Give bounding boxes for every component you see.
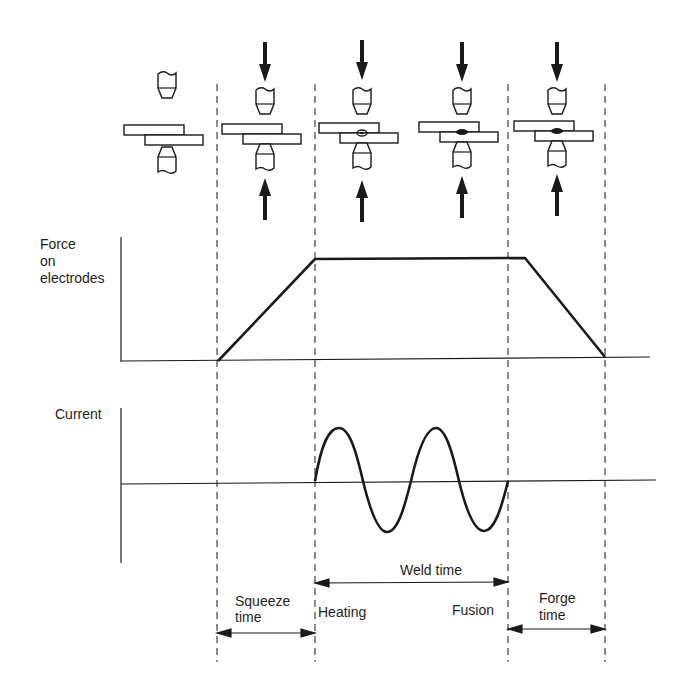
current-plot: [121, 408, 656, 563]
stage-open-illustration: [124, 72, 203, 174]
force-plot: [121, 237, 650, 362]
heating-label: Heating: [318, 604, 366, 620]
squeeze-line-1: Squeeze: [235, 593, 290, 609]
diagram-canvas: [0, 0, 690, 674]
forge-line-1: Forge: [539, 590, 576, 607]
squeeze-time-label: Squeeze time: [235, 593, 290, 625]
stage-forge-illustration: [514, 42, 593, 216]
current-x-axis: [121, 480, 656, 484]
force-axis-label: Force on electrodes: [40, 236, 105, 287]
fusion-label: Fusion: [452, 602, 494, 618]
force-label-line-1: Force: [40, 236, 105, 253]
stage-heating-illustration: [319, 40, 398, 222]
stage-squeeze-illustration: [222, 42, 301, 220]
forge-time-label: Forge time: [539, 590, 576, 624]
force-label-line-3: electrodes: [40, 270, 105, 287]
force-x-axis: [121, 357, 650, 361]
stage-fusion-illustration: [419, 42, 498, 218]
current-axis-label: Current: [55, 406, 102, 422]
current-trace: [315, 428, 508, 532]
force-label-line-2: on: [40, 253, 105, 270]
weld-time-label: Weld time: [400, 562, 462, 578]
forge-line-2: time: [539, 607, 576, 624]
weld-time-arrow: [315, 582, 508, 583]
squeeze-line-2: time: [235, 609, 290, 625]
force-trace: [218, 258, 605, 361]
